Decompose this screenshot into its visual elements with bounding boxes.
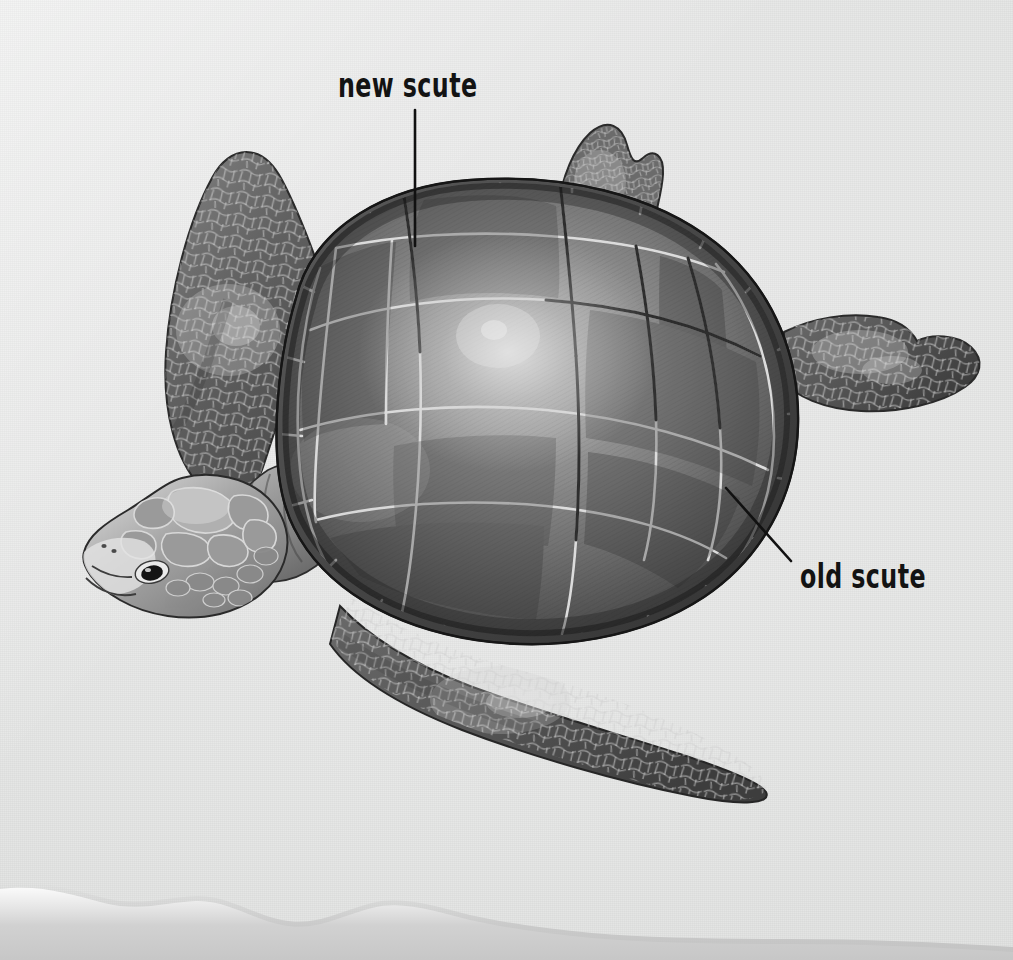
label-new-scute: new scute <box>338 69 477 102</box>
head <box>81 475 287 618</box>
sea-turtle-illustration <box>0 0 1013 960</box>
rear-flipper-right <box>770 300 1000 430</box>
label-old-scute: old scute <box>800 560 926 593</box>
carapace <box>277 160 810 660</box>
page-bottom-edge <box>0 883 1013 960</box>
illustration-page: new scute old scute <box>0 0 1013 960</box>
